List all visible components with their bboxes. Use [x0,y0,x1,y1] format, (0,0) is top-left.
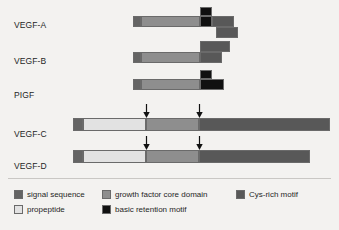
vegf-c-cleavage-site-arrow-2 [195,104,204,118]
vegf-b-cys-rich-motif-isoform [200,41,230,52]
vegf-a-cys-rich-motif-upper [212,16,234,27]
legend-item-growth-factor-core-domain: growth factor core domain [102,188,208,201]
vegf-d-signal-sequence [73,150,83,163]
legend-swatch-basic-retention-motif-icon [102,205,111,214]
pigf-basic-retention-motif [200,79,224,90]
legend-label: Cys-rich motif [249,190,298,199]
vegf-c-propeptide-n-terminal [83,118,146,131]
vegf-b-cys-rich-motif [200,52,222,63]
row-label-vegf-c: VEGF-C [14,129,47,139]
legend-swatch-cys-rich-motif-icon [236,190,245,199]
legend-label: propeptide [27,205,65,214]
vegf-c-growth-factor-core-domain [146,118,199,131]
legend-swatch-propeptide-icon [14,205,23,214]
pigf-basic-retention-motif-top [200,70,212,79]
legend-label: signal sequence [27,190,85,199]
legend-swatch-growth-factor-core-domain-icon [102,190,111,199]
row-label-vegf-d: VEGF-D [14,161,47,171]
vegf-c-signal-sequence [73,118,83,131]
legend-label: growth factor core domain [115,190,208,199]
legend-item-propeptide: propeptide [14,203,65,216]
legend-item-basic-retention-motif: basic retention motif [102,203,187,216]
vegf-a-signal-sequence [133,16,141,27]
vegf-a-basic-retention-motif [200,16,212,27]
row-label-pigf: PIGF [14,90,34,100]
vegf-d-cleavage-site-arrow-1 [142,136,151,150]
vegf-d-growth-factor-core-domain [146,150,199,163]
legend-item-signal-sequence: signal sequence [14,188,85,201]
vegf-d-cleavage-site-arrow-2 [195,136,204,150]
vegf-d-cys-rich-motif [199,150,310,163]
vegf-c-cleavage-site-arrow-1 [142,104,151,118]
vegf-a-cys-rich-motif-lower [216,27,238,38]
legend: signal sequencegrowth factor core domain… [0,182,339,230]
vegf-a-growth-factor-core-domain [141,16,200,27]
vegf-b-growth-factor-core-domain [141,52,200,63]
row-label-vegf-b: VEGF-B [14,56,46,66]
vegf-b-signal-sequence [133,52,141,63]
vegf-c-cys-rich-motif [199,118,330,131]
legend-item-cys-rich-motif: Cys-rich motif [236,188,298,201]
row-label-vegf-a: VEGF-A [14,20,46,30]
pigf-signal-sequence [133,79,141,90]
legend-swatch-signal-sequence-icon [14,190,23,199]
legend-divider [8,178,331,179]
legend-label: basic retention motif [115,205,187,214]
vegf-d-propeptide-n-terminal [83,150,146,163]
vegf-a-basic-retention-motif-top [200,7,212,16]
pigf-growth-factor-core-domain [141,79,200,90]
